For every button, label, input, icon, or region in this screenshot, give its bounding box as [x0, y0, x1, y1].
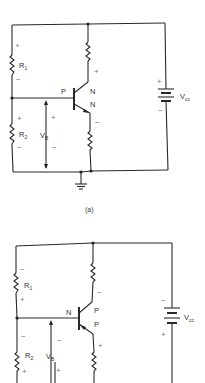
collector-res-polarity: +	[94, 67, 99, 76]
collector-region-label: N	[90, 87, 95, 96]
r1-bottom-polarity: +	[20, 295, 25, 304]
emitter-node-dot	[89, 169, 92, 172]
caption-a: (a)	[85, 206, 94, 214]
r2-resistor	[10, 98, 14, 172]
ground-icon	[75, 172, 87, 189]
emitter-resistor	[88, 113, 92, 171]
collector-resistor	[91, 243, 95, 302]
emitter-res-polarity: +	[98, 341, 103, 350]
r2-bottom-polarity: −	[17, 143, 22, 152]
r1-resistor	[14, 246, 18, 318]
pnp-transistor	[79, 302, 93, 334]
r2-top-polarity: −	[21, 332, 26, 341]
r1-resistor	[10, 25, 14, 98]
vcc-top-polarity: −	[161, 296, 166, 305]
circuit-figure: + R1 − + R2 − + VB − P N N	[0, 0, 205, 383]
vcc-bottom-polarity: −	[158, 106, 163, 115]
r1-bottom-polarity: −	[16, 75, 21, 84]
circuit-a: + R1 − + R2 − + VB − P N N	[10, 22, 191, 214]
emitter-resistor	[92, 334, 96, 383]
vcc-battery	[164, 243, 180, 383]
vcc-battery	[158, 23, 174, 170]
vcc-top-polarity: +	[157, 77, 162, 86]
base-region-label: P	[61, 87, 66, 96]
vb-top-polarity: −	[57, 336, 62, 345]
emitter-region-label: N	[90, 100, 95, 109]
vcc-label: Vcc	[184, 313, 195, 323]
r2-top-polarity: +	[17, 114, 22, 123]
collector-resistor	[86, 24, 90, 82]
r1-label: R1	[24, 281, 32, 291]
r1-top-polarity: +	[15, 41, 20, 50]
r1-top-polarity: −	[20, 265, 25, 274]
circuit-b: − R1 + − R2 + − VB + N P P	[14, 241, 195, 383]
r2-label: R2	[25, 351, 33, 361]
emitter-res-polarity: −	[95, 118, 100, 127]
npn-transistor	[74, 82, 90, 113]
vb-label: VB	[46, 352, 55, 362]
vcc-label: Vcc	[180, 92, 191, 102]
vb-bottom-polarity: −	[52, 143, 57, 152]
collector-region-label: P	[94, 306, 99, 315]
emitter-region-label: P	[94, 320, 99, 329]
r1-label: R1	[19, 61, 27, 71]
collector-res-polarity: −	[97, 288, 102, 297]
r2-bottom-polarity: +	[22, 367, 27, 376]
r2-label: R2	[19, 130, 27, 140]
r2-resistor	[15, 318, 19, 383]
vb-bottom-polarity: +	[56, 366, 61, 375]
vb-top-polarity: +	[51, 113, 56, 122]
vcc-bottom-polarity: +	[161, 330, 166, 339]
base-region-label: N	[66, 308, 71, 317]
vb-label: VB	[40, 131, 49, 141]
